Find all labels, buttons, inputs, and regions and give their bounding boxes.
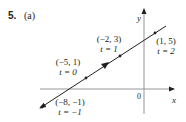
y-axis-label: y [137,13,141,23]
point-coord: (−5, 1) [52,57,84,67]
point-label-t-0: (−5, 1) t = 0 [52,57,84,77]
point-coord: (−8, −1) [52,97,88,107]
point-coord: (−2, 3) [92,34,126,44]
point-param: t = 1 [92,44,126,54]
point-t-2 [154,32,157,35]
point-param: t = −1 [52,107,88,117]
point-param: t = 2 [151,46,181,56]
x-axis-label: x [172,95,176,105]
parametric-line-diagram [0,0,186,122]
point-t-0 [85,77,88,80]
point-label-t-1: (−2, 3) t = 1 [92,34,126,54]
point-coord: (1, 5) [151,36,181,46]
point-t-minus-1 [41,106,44,109]
point-param: t = 0 [52,67,84,77]
point-label-t-minus-1: (−8, −1) t = −1 [52,97,88,117]
point-label-t-2: (1, 5) t = 2 [151,36,181,56]
origin-label: 0 [137,92,141,102]
point-t-1 [119,55,122,58]
